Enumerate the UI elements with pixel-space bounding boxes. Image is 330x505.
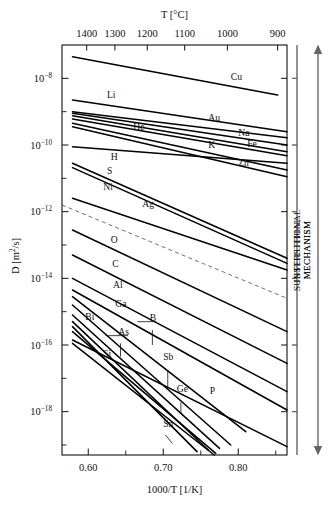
series-label-Zn: Zn	[238, 157, 249, 168]
curve-Al	[73, 278, 288, 391]
series-label-He: He	[133, 121, 144, 132]
y-tick-label--16: 10−16	[30, 339, 52, 351]
mechanism-divider	[62, 205, 287, 298]
y-tick-label--8: 10−8	[34, 72, 53, 84]
series-label-Ge: Ge	[177, 383, 188, 394]
leader-line-4	[166, 435, 173, 443]
series-label-Sn: Sn	[163, 418, 173, 429]
series-label-Li: Li	[107, 89, 116, 100]
series-label-Bi: Bi	[85, 311, 94, 322]
top-tick-label-1200: 1200	[137, 28, 158, 39]
y-tick-label--10: 10−10	[30, 139, 52, 151]
curve-B	[73, 305, 231, 445]
series-label-S: S	[107, 165, 112, 176]
substitutional-mechanism-arrow-head-down	[314, 446, 322, 455]
substitutional-mechanism-label-line2: MECHANISM	[302, 221, 312, 280]
series-label-Cu: Cu	[231, 71, 242, 82]
chart-canvas: T [°C]140013001200110010009000.600.700.8…	[0, 0, 330, 505]
curve-Cu	[73, 57, 278, 95]
series-label-Ni: Ni	[103, 181, 113, 192]
curve-O	[73, 230, 288, 332]
y-axis-title: D [m2/s]	[9, 238, 21, 274]
plot-frame	[62, 45, 287, 455]
series-label-Si: Si	[103, 348, 111, 359]
curve-S	[73, 163, 288, 258]
series-label-O: O	[111, 234, 118, 245]
y-tick-label--12: 10−12	[30, 205, 52, 217]
series-label-K: K	[208, 139, 215, 150]
diffusion-coefficient-chart: T [°C]140013001200110010009000.600.700.8…	[0, 0, 330, 505]
top-tick-label-1400: 1400	[76, 28, 97, 39]
series-label-Fe: Fe	[247, 138, 257, 149]
top-tick-label-1100: 1100	[174, 28, 195, 39]
series-label-Na: Na	[238, 127, 250, 138]
series-label-Au: Au	[208, 112, 220, 123]
curve-Ag	[73, 198, 288, 270]
x-tick-label-0.7: 0.70	[154, 462, 172, 473]
series-label-Sb: Sb	[163, 351, 173, 362]
top-tick-label-1300: 1300	[104, 28, 125, 39]
x-tick-label-0.6: 0.60	[79, 462, 97, 473]
curve-H	[73, 147, 288, 164]
series-label-C: C	[112, 258, 118, 269]
x-tick-label-0.8: 0.80	[229, 462, 247, 473]
series-label-H: H	[111, 151, 118, 162]
top-tick-label-1000: 1000	[217, 28, 238, 39]
top-tick-label-900: 900	[270, 28, 286, 39]
y-tick-label--18: 10−18	[30, 405, 52, 417]
curve-As	[73, 315, 220, 448]
x-axis-title: 1000/T [1/K]	[147, 484, 203, 495]
series-label-Ga: Ga	[115, 298, 127, 309]
series-label-P: P	[210, 385, 215, 396]
y-tick-label--14: 10−14	[30, 272, 52, 284]
substitutional-mechanism-label-line1: SUBSTITUTIONAL	[292, 209, 302, 291]
top-axis-title: T [°C]	[161, 9, 188, 20]
series-label-Al: Al	[113, 279, 123, 290]
series-label-Ag: Ag	[142, 198, 154, 209]
substitutional-mechanism-arrow-head-up	[314, 45, 322, 54]
